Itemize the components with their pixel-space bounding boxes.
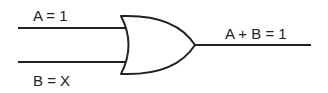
input-a-label: A = 1 — [33, 7, 68, 24]
input-b-label: B = X — [33, 72, 70, 89]
or-gate-icon — [121, 16, 195, 74]
or-gate-diagram: A = 1 B = X A + B = 1 — [0, 0, 328, 93]
output-label: A + B = 1 — [225, 25, 287, 42]
